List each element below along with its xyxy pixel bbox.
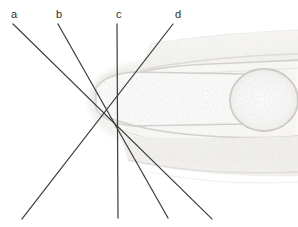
axis-label-a: a: [11, 9, 17, 20]
axis-label-c: c: [116, 9, 122, 20]
axis-line-b: [58, 24, 168, 218]
axis-line-c: [117, 24, 118, 218]
axis-line-a: [13, 24, 212, 219]
axis-label-b: b: [56, 9, 62, 20]
micrograph-figure: a b c d: [0, 0, 298, 227]
axis-line-d: [22, 24, 173, 219]
axis-lines-overlay: [0, 0, 298, 227]
axis-label-d: d: [175, 9, 181, 20]
